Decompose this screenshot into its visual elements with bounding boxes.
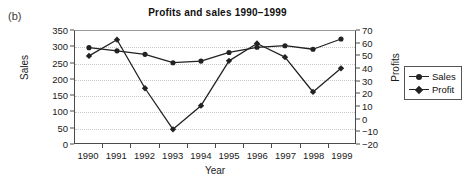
legend-circle-marker-icon [409, 72, 429, 81]
y-axis-right-tick-mark [356, 80, 360, 81]
y-axis-right-tick-label: −10 [362, 126, 392, 137]
x-axis-tick-mark [215, 144, 216, 148]
data-series-layer [75, 31, 355, 143]
x-axis-tick-mark [130, 144, 131, 148]
y-axis-right-title: Profits [390, 38, 401, 98]
data-point-sales-1991 [114, 48, 119, 53]
y-axis-left-tick-label: 0 [28, 139, 68, 150]
chart-title: Profits and sales 1990−1999 [85, 7, 350, 18]
y-axis-left-title: Sales [19, 38, 30, 98]
x-axis-title: Year [135, 165, 295, 176]
y-axis-right-tick-label: 10 [362, 101, 392, 112]
y-axis-left-tick-label: 250 [28, 57, 68, 68]
y-axis-left-tick-label: 50 [28, 122, 68, 133]
y-axis-left-tick-label: 150 [28, 90, 68, 101]
data-point-sales-1990 [86, 45, 91, 50]
y-axis-right-tick-label: 0 [362, 113, 392, 124]
y-axis-left-tick-label: 300 [28, 41, 68, 52]
data-point-sales-1997 [282, 43, 287, 48]
x-axis-tick-mark [187, 144, 188, 148]
y-axis-right-tick-label: −20 [362, 139, 392, 150]
x-axis-tick-mark [102, 144, 103, 148]
y-axis-left-tick-label: 100 [28, 106, 68, 117]
x-axis-tick-mark [159, 144, 160, 148]
x-axis-tick-mark [300, 144, 301, 148]
y-axis-right-tick-label: 20 [362, 88, 392, 99]
y-axis-right-tick-label: 60 [362, 37, 392, 48]
legend-label: Sales [432, 71, 456, 82]
y-axis-right-tick-mark [356, 42, 360, 43]
data-point-sales-1995 [226, 50, 231, 55]
data-point-profit-1995 [226, 58, 232, 64]
data-point-sales-1998 [310, 47, 315, 52]
data-point-sales-1992 [142, 52, 147, 57]
data-point-sales-1994 [198, 59, 203, 64]
figure-panel-b: (b) Profits and sales 1990−1999 05010015… [0, 0, 471, 186]
legend-item-profit[interactable]: Profit [409, 83, 456, 96]
data-point-profit-1996 [254, 40, 260, 46]
y-axis-right-tick-label: 70 [362, 25, 392, 36]
data-point-profit-1990 [86, 53, 92, 59]
y-axis-right-tick-mark [356, 30, 360, 31]
legend-item-sales[interactable]: Sales [409, 70, 456, 83]
y-axis-right-tick-mark [356, 55, 360, 56]
y-axis-right-tick-mark [356, 106, 360, 107]
data-point-profit-1991 [114, 37, 120, 43]
y-axis-right-tick-label: 30 [362, 75, 392, 86]
data-point-sales-1999 [338, 36, 343, 41]
x-axis-tick-mark [328, 144, 329, 148]
x-axis-tick-label: 1999 [322, 150, 362, 161]
y-axis-right-tick-mark [356, 131, 360, 132]
legend-diamond-marker-icon [409, 85, 429, 94]
y-axis-right-tick-mark [356, 68, 360, 69]
y-axis-right-tick-label: 40 [362, 63, 392, 74]
series-line-sales [89, 39, 341, 63]
plot-area [74, 30, 356, 144]
panel-label: (b) [8, 10, 21, 22]
x-axis-tick-mark [243, 144, 244, 148]
chart-legend: SalesProfit [404, 66, 462, 100]
legend-label: Profit [432, 84, 454, 95]
data-point-sales-1993 [170, 60, 175, 65]
y-axis-right-tick-mark [356, 144, 360, 145]
y-axis-right-tick-mark [356, 93, 360, 94]
series-line-profit [89, 40, 341, 130]
y-axis-right-tick-label: 50 [362, 50, 392, 61]
y-axis-left-tick-label: 200 [28, 73, 68, 84]
x-axis-tick-mark [271, 144, 272, 148]
y-axis-left-tick-label: 350 [28, 25, 68, 36]
y-axis-right-tick-mark [356, 118, 360, 119]
